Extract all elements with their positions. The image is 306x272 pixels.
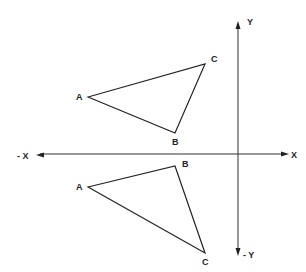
vertex-label-reflected-a: A	[76, 182, 83, 192]
vertex-label-reflected-b: B	[182, 159, 189, 169]
triangles-group: ABCABC	[76, 54, 218, 267]
y-axis-negative-label: - Y	[243, 250, 254, 260]
triangle-original	[88, 64, 205, 133]
vertex-label-original-a: A	[76, 92, 83, 102]
triangle-reflected	[88, 166, 205, 253]
vertex-label-reflected-c: C	[202, 257, 209, 267]
vertex-label-original-b: B	[172, 137, 179, 147]
y-axis-negative-arrow	[236, 248, 241, 256]
x-axis-positive-label: X	[291, 150, 297, 160]
y-axis-positive-arrow	[236, 21, 241, 29]
x-axis-negative-label: - X	[17, 151, 29, 161]
coordinate-diagram: X - X Y - Y ABCABC	[0, 0, 306, 272]
vertex-label-original-c: C	[211, 54, 218, 64]
x-axis-positive-arrow	[281, 152, 289, 157]
y-axis-positive-label: Y	[247, 17, 253, 27]
x-axis-negative-arrow	[36, 153, 44, 158]
